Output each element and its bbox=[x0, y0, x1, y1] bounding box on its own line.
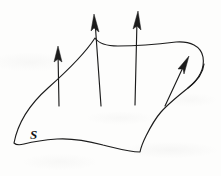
normal-vector-4 bbox=[165, 56, 189, 106]
normal-vector-2-arrowhead bbox=[91, 14, 99, 32]
surface-diagram bbox=[0, 0, 221, 176]
surface-label-s: S bbox=[30, 128, 37, 141]
surface-outline bbox=[14, 38, 203, 152]
normal-vector-2-shaft bbox=[95, 21, 101, 106]
normal-vector-3 bbox=[133, 11, 141, 105]
normal-vector-3-shaft bbox=[135, 20, 137, 105]
normal-vector-4-shaft bbox=[165, 63, 185, 106]
figure-canvas: S bbox=[0, 0, 221, 176]
surface-fold-edge bbox=[188, 64, 204, 88]
normal-vector-2 bbox=[91, 14, 101, 106]
normal-vector-4-arrowhead bbox=[178, 56, 189, 74]
normal-vector-1-shaft bbox=[58, 52, 59, 106]
